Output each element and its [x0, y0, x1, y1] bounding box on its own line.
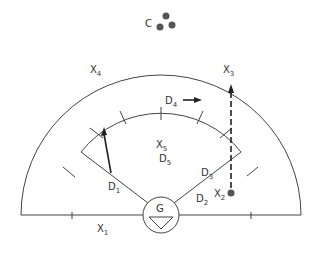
svg-text:D2: D2 — [196, 193, 208, 207]
svg-text:D3: D3 — [201, 167, 213, 181]
cluster-label: C — [145, 18, 152, 29]
gate: G — [143, 197, 179, 233]
label-d5: D5 — [159, 153, 171, 167]
cluster-c: C — [145, 13, 176, 31]
label-d3: D3 — [201, 167, 213, 181]
label-x3: X3 — [223, 64, 234, 78]
svg-text:D4: D4 — [165, 95, 178, 109]
diagram-canvas: C G X4 X3 D4 X5 D5 — [0, 0, 316, 254]
label-d2: D2 — [196, 193, 208, 207]
cluster-dot — [157, 24, 164, 31]
label-d1: D1 — [108, 181, 120, 195]
label-x5: X5 — [156, 139, 167, 153]
label-d4: D4 — [165, 95, 178, 109]
gate-label: G — [156, 203, 164, 214]
sector-dash — [63, 167, 75, 177]
svg-text:D1: D1 — [108, 181, 120, 195]
d1-arrow — [104, 134, 111, 173]
svg-text:X2: X2 — [214, 188, 225, 202]
d1-arrowhead-icon — [101, 127, 107, 136]
sector-dash — [247, 167, 258, 176]
svg-text:X5: X5 — [156, 139, 167, 153]
label-x2: X2 — [214, 188, 225, 202]
svg-text:X1: X1 — [97, 223, 108, 237]
cluster-dot — [169, 22, 176, 29]
cluster-dot — [163, 13, 170, 20]
label-x1: X1 — [97, 223, 108, 237]
d4-arrowhead-icon — [194, 97, 202, 103]
svg-text:D5: D5 — [159, 153, 171, 167]
inner-arc-tick — [120, 111, 126, 124]
svg-text:X4: X4 — [90, 64, 102, 78]
x3-arrowhead-icon — [228, 84, 234, 93]
svg-text:X3: X3 — [223, 64, 234, 78]
label-x4: X4 — [90, 64, 102, 78]
x2-dot — [228, 190, 235, 197]
